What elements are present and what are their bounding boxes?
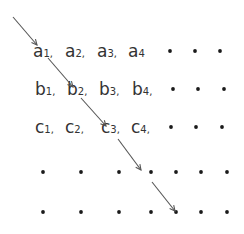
ellipsis-dot <box>225 210 229 214</box>
term-letter: b <box>35 79 46 99</box>
ellipsis-dot <box>171 87 175 91</box>
term-labels: a1,a2,a3,a4b1,b2,b3,b4,c1,c2,c3,c4, <box>33 41 152 137</box>
term-separator: , <box>147 124 150 135</box>
term-separator: , <box>82 48 85 59</box>
term-letter: c <box>35 117 44 137</box>
arrow-shaft <box>13 17 37 45</box>
ellipsis-dot <box>225 170 229 174</box>
ellipsis-dot <box>218 49 222 53</box>
term-letter: c <box>131 117 140 137</box>
term-separator: , <box>81 124 84 135</box>
term-separator: , <box>149 86 152 97</box>
arrow-shaft <box>152 182 175 211</box>
term-b1: b1, <box>35 79 55 99</box>
term-separator: , <box>114 48 117 59</box>
term-separator: , <box>84 86 87 97</box>
diagonal-arrow <box>81 98 106 126</box>
term-separator: , <box>52 86 55 97</box>
term-separator: , <box>116 86 119 97</box>
arrow-shaft <box>48 58 73 87</box>
term-a4: a4 <box>128 41 145 61</box>
term-b4: b4, <box>132 79 152 99</box>
term-c4: c4, <box>131 117 150 137</box>
ellipsis-dot <box>199 170 203 174</box>
term-separator: , <box>50 48 53 59</box>
diagonal-arrow <box>152 182 175 211</box>
ellipsis-dot <box>79 210 83 214</box>
ellipsis-dot <box>196 87 200 91</box>
diagonal-arrow <box>48 58 73 87</box>
ellipsis-dot <box>220 125 224 129</box>
term-b2: b2, <box>67 79 87 99</box>
ellipsis-dot <box>222 87 226 91</box>
term-index: 4 <box>138 48 144 59</box>
term-separator: , <box>51 124 54 135</box>
ellipsis-dot <box>174 170 178 174</box>
term-a3: a3, <box>97 41 117 61</box>
term-letter: b <box>99 79 110 99</box>
term-c2: c2, <box>65 117 84 137</box>
ellipsis-dot <box>117 210 121 214</box>
term-letter: a <box>128 41 138 61</box>
diagram-canvas: a1,a2,a3,a4b1,b2,b3,b4,c1,c2,c3,c4, <box>0 0 244 234</box>
ellipsis-dot <box>169 125 173 129</box>
diagonal-arrow <box>118 139 141 170</box>
term-letter: c <box>101 117 110 137</box>
term-separator: , <box>117 124 120 135</box>
ellipsis-dot <box>79 170 83 174</box>
ellipsis-dot <box>41 210 45 214</box>
ellipsis-dot <box>193 49 197 53</box>
arrow-shaft <box>81 98 106 126</box>
ellipsis-dot <box>41 170 45 174</box>
diagonal-sequence-diagram: a1,a2,a3,a4b1,b2,b3,b4,c1,c2,c3,c4, <box>0 0 244 234</box>
term-b3: b3, <box>99 79 119 99</box>
term-letter: a <box>97 41 107 61</box>
term-c1: c1, <box>35 117 54 137</box>
term-a2: a2, <box>65 41 85 61</box>
ellipsis-dot <box>149 210 153 214</box>
arrow-shaft <box>118 139 141 170</box>
term-c3: c3, <box>101 117 120 137</box>
term-letter: c <box>65 117 74 137</box>
ellipsis-dot <box>168 49 172 53</box>
ellipsis-dot <box>149 170 153 174</box>
term-letter: a <box>65 41 75 61</box>
ellipsis-dot <box>194 125 198 129</box>
ellipsis-dot <box>117 170 121 174</box>
ellipsis-dot <box>199 210 203 214</box>
term-letter: b <box>132 79 143 99</box>
diagonal-arrow <box>13 17 37 45</box>
